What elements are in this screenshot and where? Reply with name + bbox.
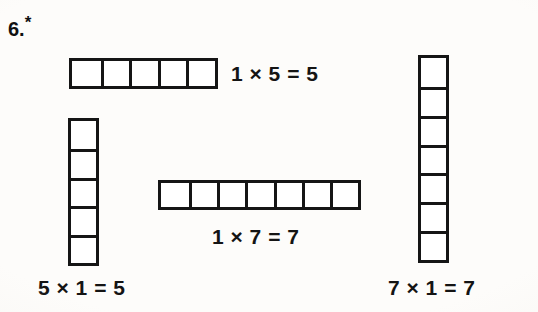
- array-cell[interactable]: [302, 183, 330, 207]
- array-cell[interactable]: [421, 202, 446, 231]
- array-1x5-horizontal[interactable]: [69, 58, 218, 89]
- worksheet-page: 6.* 1 × 5 = 5 5 × 1 = 5 1 × 7 = 7: [0, 0, 538, 312]
- array-cell[interactable]: [217, 183, 245, 207]
- array-cell[interactable]: [72, 61, 101, 86]
- array-cell[interactable]: [245, 183, 273, 207]
- array-cell[interactable]: [71, 206, 96, 234]
- array-cell[interactable]: [129, 61, 158, 86]
- array-cell[interactable]: [421, 231, 446, 260]
- array-5x1-vertical[interactable]: [68, 118, 99, 266]
- array-cell[interactable]: [330, 183, 358, 207]
- array-cell[interactable]: [71, 235, 96, 263]
- array-cell[interactable]: [421, 116, 446, 145]
- array-cell[interactable]: [421, 87, 446, 116]
- array-cell[interactable]: [158, 61, 187, 86]
- array-cell[interactable]: [71, 178, 96, 206]
- exercise-number: 6.*: [8, 19, 31, 39]
- array-cell[interactable]: [274, 183, 302, 207]
- equation-label-5x1: 5 × 1 = 5: [38, 277, 125, 298]
- array-cell[interactable]: [71, 121, 96, 149]
- array-cell[interactable]: [421, 58, 446, 87]
- array-cell[interactable]: [189, 183, 217, 207]
- equation-label-7x1: 7 × 1 = 7: [388, 277, 475, 298]
- array-cell[interactable]: [101, 61, 130, 86]
- array-cell[interactable]: [421, 145, 446, 174]
- array-cell[interactable]: [161, 183, 189, 207]
- array-1x7-horizontal[interactable]: [158, 180, 361, 210]
- array-7x1-vertical[interactable]: [418, 55, 449, 263]
- equation-label-1x7: 1 × 7 = 7: [212, 226, 299, 247]
- asterisk-marker-icon: *: [25, 13, 32, 32]
- exercise-number-text: 6.: [8, 18, 25, 40]
- array-cell[interactable]: [186, 61, 215, 86]
- equation-label-1x5: 1 × 5 = 5: [231, 63, 318, 84]
- array-cell[interactable]: [71, 149, 96, 177]
- array-cell[interactable]: [421, 173, 446, 202]
